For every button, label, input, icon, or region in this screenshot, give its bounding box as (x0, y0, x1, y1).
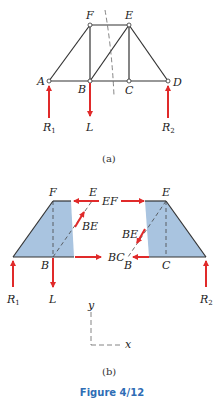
truss-figure: A B C D F E R1 L R2 (a) (0, 0, 224, 411)
node-d-label: D (172, 76, 182, 89)
free-body-diagram-b: F E EF BE BC B E BE B C R1 L R2 y x (b) (6, 186, 213, 377)
r1-label-b: R1 (6, 293, 20, 307)
node-b-label: B (77, 83, 86, 96)
force-arrows-a (49, 83, 168, 118)
right-e-label: E (161, 186, 170, 199)
figure-title: Figure 4/12 (80, 387, 144, 398)
node-e-label: E (124, 9, 133, 22)
y-axis-label: y (87, 299, 95, 312)
r1-label: R1 (42, 121, 56, 135)
caption-a: (a) (102, 153, 116, 164)
left-section-shade (13, 201, 74, 257)
node-c-label: C (125, 84, 134, 97)
caption-b: (b) (102, 366, 116, 377)
left-b-label: B (40, 259, 49, 272)
right-b-label: B (123, 259, 132, 272)
l-label-b: L (48, 293, 56, 306)
node-a-label: A (36, 75, 45, 88)
right-section-shade (145, 201, 206, 257)
truss-joints (47, 23, 170, 83)
l-label: L (85, 121, 93, 134)
right-c-label: C (162, 259, 171, 272)
left-be-label: BE (81, 220, 98, 233)
truss-diagram-a: A B C D F E R1 L R2 (a) (36, 9, 182, 164)
be-force-right (137, 229, 145, 243)
coordinate-axes (91, 312, 122, 345)
bc-label: BC (107, 251, 125, 264)
left-e-label: E (88, 186, 97, 199)
right-be-label: BE (121, 228, 138, 241)
x-axis-label: x (125, 338, 132, 351)
r2-label: R2 (161, 121, 175, 135)
ef-label: EF (101, 195, 118, 208)
truss-members (49, 25, 168, 81)
node-f-label: F (85, 9, 94, 22)
r2-label-b: R2 (199, 293, 213, 307)
left-f-label: F (48, 186, 57, 199)
